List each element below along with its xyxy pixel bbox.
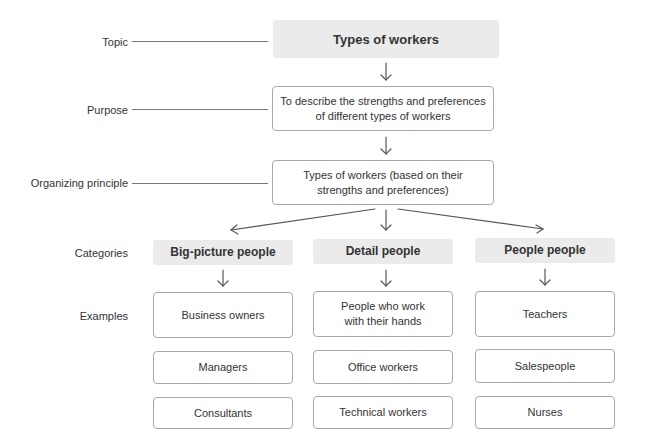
connector-arrows (0, 0, 647, 447)
arrow-down-icon (381, 210, 391, 230)
arrow-diagonal-left-icon (231, 209, 375, 234)
arrow-down-icon (381, 270, 391, 286)
arrow-down-icon (540, 269, 550, 285)
arrow-down-icon (381, 63, 391, 80)
arrow-down-icon (218, 270, 228, 286)
arrow-diagonal-right-icon (398, 209, 543, 233)
arrow-down-icon (381, 137, 391, 154)
